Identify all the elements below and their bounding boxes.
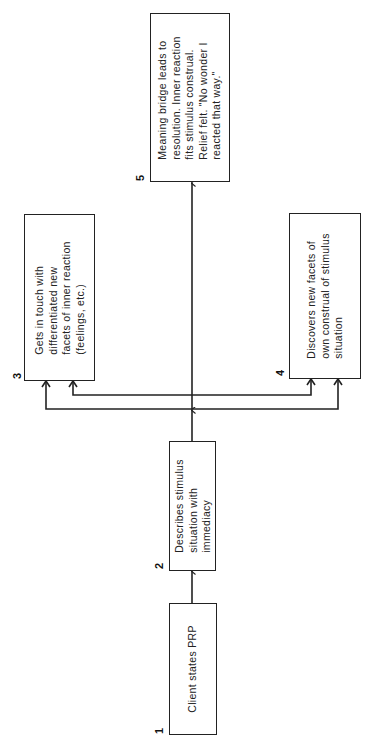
node-2-text: Describes stimulus situation with immedi… [172,459,213,553]
node-1-number: 1 [153,728,165,734]
node-1-box: Client states PRP [169,603,217,735]
node-5-box: Meaning bridge leads to resolution. Inne… [150,13,230,182]
node-3-number: 3 [11,373,23,379]
node-3-text: Gets in touch with differentiated new fa… [33,241,87,354]
node-4-box: Discovers new facets of own construal of… [289,213,361,379]
node-5-text: Meaning bridge leads to resolution. Inne… [156,36,224,159]
node-4-number: 4 [274,370,286,376]
node-2-box: Describes stimulus situation with immedi… [169,441,216,571]
flow-diagram: Meaning bridge leads to resolution. Inne… [0,0,371,738]
node-1-text: Client states PRP [186,625,200,712]
node-4-text: Discovers new facets of own construal of… [305,233,346,358]
node-5-number: 5 [134,175,146,181]
node-3-box: Gets in touch with differentiated new fa… [24,214,95,381]
node-2-number: 2 [153,563,165,569]
